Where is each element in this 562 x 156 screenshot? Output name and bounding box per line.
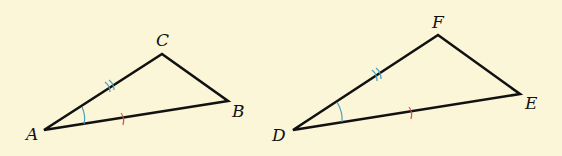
vertex-label-c: C <box>156 30 169 50</box>
congruence-diagram: C B A F E D <box>0 0 562 156</box>
vertex-label-b: B <box>231 101 245 121</box>
angle-d-mark <box>337 102 342 122</box>
vertex-label-e: E <box>524 93 538 113</box>
triangle-def-outline <box>293 35 520 130</box>
triangle-abc-outline <box>44 54 228 130</box>
angle-a-mark <box>82 107 85 124</box>
triangle-def: F E D <box>271 12 538 145</box>
vertex-label-d: D <box>271 125 286 145</box>
triangle-abc: C B A <box>24 30 245 144</box>
side-de-tick <box>409 107 412 119</box>
vertex-label-f: F <box>431 12 445 32</box>
vertex-label-a: A <box>24 124 38 144</box>
